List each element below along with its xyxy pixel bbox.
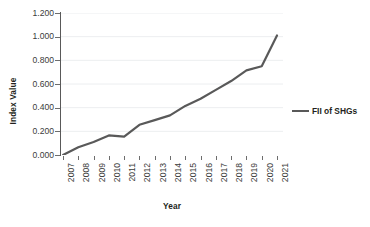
series-line <box>63 35 277 155</box>
x-axis-tick-label: 2007 <box>67 163 76 193</box>
x-axis-tick-mark <box>185 156 186 160</box>
line-chart: Index Value 0.0000.2000.4000.6000.8001.0… <box>0 0 370 227</box>
y-axis-tick-label: 0.200 <box>18 127 54 136</box>
x-axis-tick-label: 2009 <box>98 163 107 193</box>
x-axis-tick-label: 2017 <box>220 163 229 193</box>
y-axis-tick-label: 0.400 <box>18 103 54 112</box>
x-axis-tick-label: 2015 <box>189 163 198 193</box>
y-axis-tick-mark <box>55 155 60 156</box>
x-axis-tick-label: 2014 <box>174 163 183 193</box>
y-axis-tick-labels: 0.0000.2000.4000.6000.8001.0001.200 <box>18 0 54 227</box>
x-axis-tick-label: 2012 <box>143 163 152 193</box>
x-axis-tick-mark <box>246 156 247 160</box>
x-axis-tick-mark <box>124 156 125 160</box>
y-axis-tick-mark <box>55 37 60 38</box>
plot-svg <box>61 13 283 155</box>
x-axis-tick-mark <box>94 156 95 160</box>
y-axis-tick-mark <box>55 84 60 85</box>
x-axis-tick-mark <box>155 156 156 160</box>
y-axis-tick-label: 1.000 <box>18 32 54 41</box>
x-axis-tick-mark <box>262 156 263 160</box>
y-axis-tick-label: 0.000 <box>18 151 54 160</box>
y-axis-tick-label: 0.600 <box>18 80 54 89</box>
plot-area <box>61 13 283 155</box>
chart-legend: FII of SHGs <box>292 106 357 116</box>
x-axis-tick-mark <box>170 156 171 160</box>
x-axis-tick-label: 2008 <box>82 163 91 193</box>
x-axis-tick-label: 2013 <box>159 163 168 193</box>
y-axis-tick-label: 0.800 <box>18 56 54 65</box>
x-axis-tick-label: 2020 <box>266 163 275 193</box>
legend-label-fii-of-shgs: FII of SHGs <box>312 106 357 116</box>
data-series-group <box>63 35 277 155</box>
x-axis-tick-label: 2011 <box>128 163 137 193</box>
y-axis-tick-label: 1.200 <box>18 9 54 18</box>
x-axis-tick-label: 2016 <box>205 163 214 193</box>
legend-line-swatch <box>292 110 309 112</box>
y-axis-title: Index Value <box>8 65 18 137</box>
x-axis-tick-mark <box>63 156 64 160</box>
x-axis-tick-mark <box>109 156 110 160</box>
x-axis-title: Year <box>61 201 283 211</box>
x-axis-tick-mark <box>139 156 140 160</box>
x-axis-tick-mark <box>201 156 202 160</box>
x-axis-tick-mark <box>78 156 79 160</box>
x-axis-tick-mark <box>231 156 232 160</box>
y-axis-tick-mark <box>55 13 60 14</box>
x-axis-tick-label: 2021 <box>281 163 290 193</box>
y-axis-tick-mark <box>55 131 60 132</box>
x-axis-tick-label: 2018 <box>235 163 244 193</box>
y-axis-tick-mark <box>55 108 60 109</box>
x-axis-tick-mark <box>277 156 278 160</box>
y-axis-tick-mark <box>55 60 60 61</box>
x-axis-tick-label: 2019 <box>250 163 259 193</box>
x-axis-tick-label: 2010 <box>113 163 122 193</box>
x-axis-tick-mark <box>216 156 217 160</box>
